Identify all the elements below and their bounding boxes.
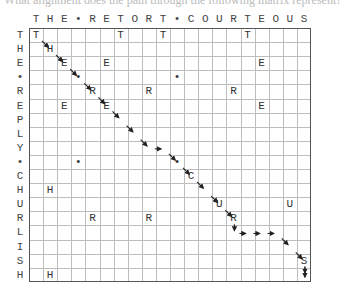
path-arrow xyxy=(225,210,231,216)
path-arrow xyxy=(282,238,288,244)
row-label: E xyxy=(14,57,26,69)
column-label: R xyxy=(142,13,156,25)
path-arrow xyxy=(98,97,104,103)
caption: What alignment does the path through the… xyxy=(4,0,342,8)
column-label: E xyxy=(255,13,269,25)
column-label: • xyxy=(170,13,184,25)
column-label: R xyxy=(85,13,99,25)
path-arrow xyxy=(42,41,48,47)
column-label: S xyxy=(297,13,311,25)
row-label: H xyxy=(14,269,26,281)
path-arrow xyxy=(84,83,90,89)
column-label: • xyxy=(71,13,85,25)
row-label: H xyxy=(14,184,26,196)
column-label: E xyxy=(100,13,114,25)
column-label: T xyxy=(156,13,170,25)
path-arrow xyxy=(197,182,203,188)
row-label: S xyxy=(14,255,26,267)
column-label: U xyxy=(212,13,226,25)
path-arrow xyxy=(211,196,217,202)
path-arrow xyxy=(70,69,76,75)
row-label: • xyxy=(14,71,26,83)
row-label: L xyxy=(14,128,26,140)
row-label: R xyxy=(14,85,26,97)
path-arrow xyxy=(141,140,147,146)
column-label: O xyxy=(198,13,212,25)
row-label: I xyxy=(14,241,26,253)
column-label: T xyxy=(241,13,255,25)
row-label: P xyxy=(14,114,26,126)
row-label: L xyxy=(14,226,26,238)
column-label: T xyxy=(29,13,43,25)
column-label: C xyxy=(184,13,198,25)
column-label: R xyxy=(226,13,240,25)
row-label: R xyxy=(14,212,26,224)
path-arrow xyxy=(127,126,133,132)
path-arrow xyxy=(169,154,175,160)
path-arrow xyxy=(56,55,62,61)
row-label: H xyxy=(14,43,26,55)
path-arrow xyxy=(183,168,189,174)
column-label: U xyxy=(283,13,297,25)
column-label: E xyxy=(57,13,71,25)
row-label: C xyxy=(14,170,26,182)
row-label: T xyxy=(14,29,26,41)
row-label: Y xyxy=(14,142,26,154)
column-label: O xyxy=(269,13,283,25)
row-label: E xyxy=(14,100,26,112)
alignment-path xyxy=(30,29,312,283)
row-label: • xyxy=(14,156,26,168)
column-label: T xyxy=(114,13,128,25)
column-label: O xyxy=(128,13,142,25)
path-arrow xyxy=(112,111,118,117)
column-label: H xyxy=(43,13,57,25)
dot-matrix-grid: TTTTHEEE••RRREEE••CHUURRRSH xyxy=(29,28,311,282)
path-arrow xyxy=(296,252,302,258)
row-label: U xyxy=(14,198,26,210)
